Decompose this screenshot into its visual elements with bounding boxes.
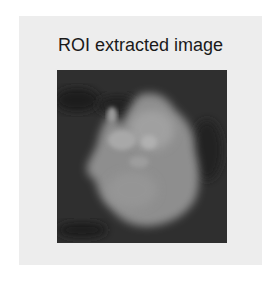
roi-image	[57, 70, 227, 243]
figure-panel: ROI extracted image	[19, 16, 262, 265]
figure-title: ROI extracted image	[19, 35, 262, 55]
roi-image-graphic	[57, 70, 227, 243]
